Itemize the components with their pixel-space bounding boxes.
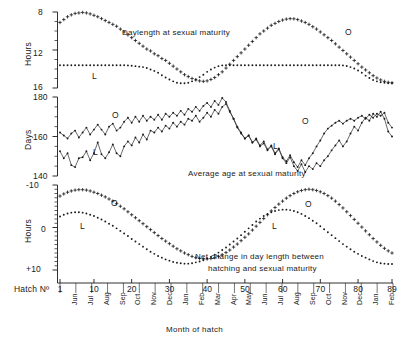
- xaxis-month-jan-19: Jan: [372, 293, 379, 305]
- xaxis-month-aug-2: Aug: [103, 292, 110, 305]
- xaxis-month-nov-5: Nov: [150, 292, 157, 305]
- xaxis-tick-20: 20: [127, 284, 137, 294]
- xaxis-month-aug-14: Aug: [293, 292, 300, 305]
- panel3-series-o-tag: O: [111, 199, 118, 208]
- xaxis-month-apr-10: Apr: [230, 294, 237, 305]
- figure-container: 8 12 16 Hours Daylength at sexual maturi…: [0, 0, 404, 339]
- panel2-series-l-tag: L: [93, 148, 98, 157]
- xaxis-month-sep-3: Sep: [119, 292, 126, 305]
- xaxis-month-oct-16: Oct: [325, 294, 332, 305]
- xaxis-month-nov-17: Nov: [341, 292, 348, 305]
- panel1-ytick-12: 12: [33, 49, 43, 58]
- panel1-ytick-8: 8: [38, 8, 43, 17]
- xaxis-tick-10: 10: [89, 284, 99, 294]
- panel2-caption: Average age at sexual maturity: [188, 170, 306, 178]
- xaxis-month-dec-6: Dec: [166, 292, 173, 305]
- xaxis-title: Month of hatch: [166, 326, 223, 334]
- panel3-series-l-tag: L: [80, 222, 85, 231]
- panel2-series-l-tag-right: L: [273, 142, 278, 151]
- panel2-ytick-180: 180: [33, 93, 48, 102]
- panel2-ytick-160: 160: [33, 133, 48, 142]
- panel2-series-o-tag-right: O: [302, 117, 309, 126]
- panel3-caption-line1: Net change in day length between: [195, 253, 324, 261]
- xaxis-month-may-11: May: [245, 291, 252, 305]
- xaxis-month-feb-20: Feb: [388, 293, 395, 305]
- panel1-caption: Daylength at sexual maturity: [122, 29, 230, 37]
- panel1-yaxis-label: Hours: [24, 42, 33, 66]
- panel3-ytick-plus10: +10: [26, 265, 41, 274]
- panel3-yaxis-label: Hours: [24, 219, 33, 243]
- xaxis-month-oct-4: Oct: [134, 294, 141, 305]
- panel3-series-o-tag-right: O: [305, 200, 312, 209]
- xaxis-month-jun-12: Jun: [261, 293, 268, 305]
- xaxis-month-mar-9: Mar: [214, 293, 221, 305]
- xaxis-tick-60: 60: [278, 284, 288, 294]
- panel3-series-l-tag-right: L: [272, 222, 277, 231]
- xaxis-tick-70: 70: [316, 284, 326, 294]
- xaxis-tick-1: 1: [58, 284, 63, 294]
- xaxis-month-jun-0: Jun: [71, 293, 78, 305]
- xaxis-month-jul-1: Jul: [87, 296, 94, 305]
- xaxis-month-dec-18: Dec: [356, 292, 363, 305]
- panel3-ytick-0: 0: [41, 225, 46, 234]
- panel3-caption-line2: hatching and sexual maturity: [208, 265, 317, 273]
- panel1-series-l-tag: L: [92, 72, 97, 81]
- hatch-number-label: Hatch Nº: [14, 285, 49, 294]
- panel1-ytick-16: 16: [33, 83, 43, 92]
- xaxis-month-sep-15: Sep: [309, 292, 316, 305]
- panel2-yaxis-label: Days: [24, 129, 33, 150]
- xaxis-month-jan-7: Jan: [182, 293, 189, 305]
- xaxis-month-jul-13: Jul: [277, 296, 284, 305]
- xaxis-month-feb-8: Feb: [198, 293, 205, 305]
- panel2-series-o-tag: O: [112, 111, 119, 120]
- panel1-series-o-tag: O: [345, 28, 352, 37]
- panel3-ytick-minus10: -10: [26, 181, 39, 190]
